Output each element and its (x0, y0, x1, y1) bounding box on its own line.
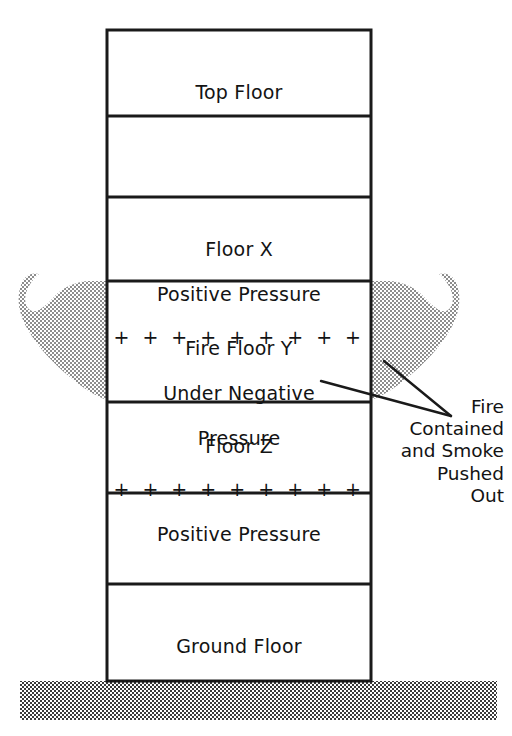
building-pressurization-diagram: Top Floor Floor X Positive Pressure + + … (0, 0, 512, 736)
positive-pressure-plus-row: + + + + + + + + + (107, 480, 371, 500)
floor-label-line: Floor Z (107, 435, 371, 457)
floor-label-line: Floor X (107, 238, 371, 260)
callout-line: Pushed (386, 463, 504, 485)
floor-label-ground-floor: Ground Floor (107, 613, 371, 680)
floor-label-line: Top Floor (107, 81, 371, 103)
floor-label-line: Fire Floor Y (107, 337, 371, 359)
callout-line: Contained (386, 418, 504, 440)
floor-label-line: Positive Pressure (107, 523, 371, 545)
callout-line: Out (386, 485, 504, 507)
floor-label-line: Under Negative (107, 382, 371, 404)
floor-label-line: Positive Pressure (107, 283, 371, 305)
callout-line: and Smoke (386, 440, 504, 462)
floor-label-floor-z: Floor Z + + + + + + + + + Positive Press… (107, 413, 371, 567)
callout-line: Fire (386, 396, 504, 418)
floor-label-line: Ground Floor (107, 635, 371, 657)
ground-strip (20, 681, 497, 720)
callout-fire-contained-label: Fire Contained and Smoke Pushed Out (386, 396, 504, 507)
floor-label-top-floor: Top Floor (107, 59, 371, 126)
smoke-plume-right-icon (371, 273, 459, 400)
smoke-plume-left-icon (19, 273, 107, 400)
